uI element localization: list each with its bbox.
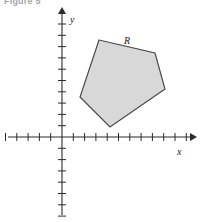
region-r-polygon [80,40,165,127]
x-axis-arrow [190,133,197,141]
x-axis-label: x [176,146,182,157]
region-r-label: R [123,35,130,46]
figure-container: Figure 5 R x y [0,0,207,222]
coordinate-plot: R x y [0,0,207,222]
y-axis-arrow [58,7,66,14]
y-axis-label: y [69,14,75,25]
